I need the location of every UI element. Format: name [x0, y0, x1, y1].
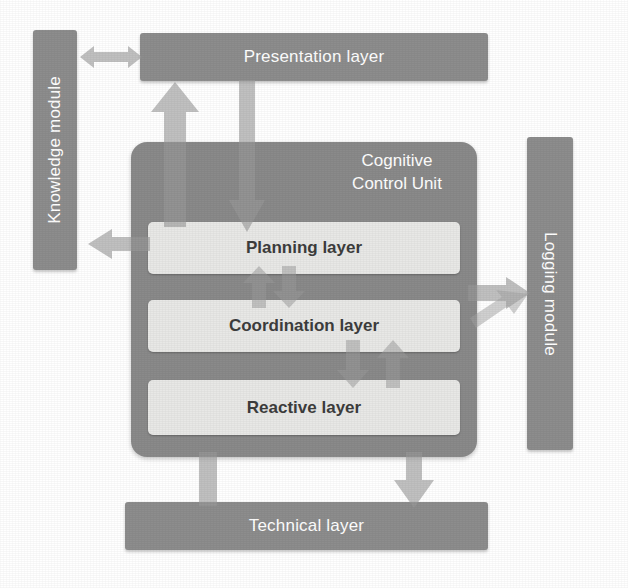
- coordination-layer-box[interactable]: Coordination layer: [148, 300, 460, 352]
- planning-layer-box[interactable]: Planning layer: [148, 222, 460, 274]
- knowledge-to-presentation-arrow: [80, 44, 142, 70]
- ccu-to-technical-down-arrow: [393, 452, 435, 508]
- logging-module-label: Logging module: [540, 232, 560, 356]
- reactive-layer-label: Reactive layer: [247, 398, 361, 418]
- knowledge-module-box[interactable]: Knowledge module: [33, 30, 77, 270]
- technical-to-ccu-up-arrow: [196, 452, 220, 506]
- presentation-layer-box[interactable]: Presentation layer: [140, 33, 488, 81]
- reactive-to-logging-diagonal-arrow: [470, 288, 530, 332]
- technical-layer-box[interactable]: Technical layer: [125, 502, 488, 550]
- presentation-layer-label: Presentation layer: [244, 47, 385, 67]
- logging-module-box[interactable]: Logging module: [527, 137, 573, 450]
- reactive-layer-box[interactable]: Reactive layer: [148, 380, 460, 435]
- technical-layer-label: Technical layer: [249, 516, 364, 536]
- knowledge-module-label: Knowledge module: [45, 76, 65, 224]
- cognitive-control-unit-container[interactable]: Cognitive Control Unit Planning layer Co…: [131, 142, 477, 457]
- cognitive-control-unit-title: Cognitive Control Unit: [331, 150, 463, 196]
- ccu-to-logging-right-arrow: [468, 276, 530, 310]
- planning-layer-label: Planning layer: [246, 238, 362, 258]
- coordination-layer-label: Coordination layer: [229, 316, 379, 336]
- architecture-diagram: Knowledge module Presentation layer Logg…: [0, 0, 628, 588]
